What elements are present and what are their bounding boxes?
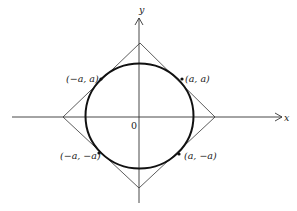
label-lower-left: (−a, −a): [60, 150, 101, 161]
y-axis-label: y: [138, 4, 145, 15]
label-upper-right: (a, a): [185, 73, 210, 84]
x-axis: x: [12, 112, 290, 123]
origin-label: 0: [131, 120, 137, 131]
label-lower-right: (a, −a): [184, 150, 217, 161]
x-axis-label: x: [284, 112, 290, 123]
point-upper-left: [99, 77, 102, 80]
tangent-points: [97, 77, 183, 155]
label-upper-left: (−a, a): [66, 73, 99, 84]
point-lower-right: [177, 152, 180, 155]
point-upper-right: [180, 77, 183, 80]
y-axis: y: [135, 4, 145, 203]
diagram-figure: x y 0 (−a, a) (a, a) (−a, −a) (a, −a): [0, 0, 297, 211]
